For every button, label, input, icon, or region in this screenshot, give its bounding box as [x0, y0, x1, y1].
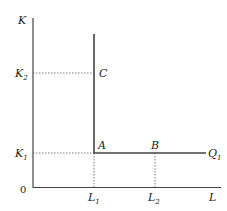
x-axis-label: L [208, 191, 216, 204]
isoquant-diagram: K L 0 K2 K1 L1 L2 A B C Q1 [0, 0, 227, 211]
q1-label: Q1 [208, 147, 222, 162]
l2-label: L2 [147, 191, 160, 206]
k2-label: K2 [14, 67, 28, 82]
y-axis-label: K [17, 14, 27, 27]
origin-label: 0 [20, 184, 26, 195]
l1-label: L1 [87, 191, 100, 206]
point-c-label: C [99, 67, 108, 80]
k1-label: K1 [14, 147, 28, 162]
point-b-label: B [150, 139, 159, 152]
point-a-label: A [97, 139, 106, 152]
isoquant-q1 [94, 34, 206, 153]
